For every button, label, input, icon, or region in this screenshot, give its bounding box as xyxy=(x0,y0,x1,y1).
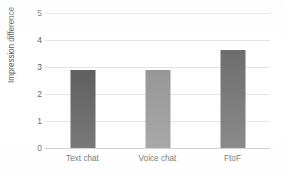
y-tick-label-5: 5 xyxy=(26,9,42,18)
x-axis-tick-labels: Text chatVoice chatFtoF xyxy=(45,153,270,167)
bar-slot xyxy=(45,13,120,148)
y-tick-label-4: 4 xyxy=(26,36,42,45)
x-tick-label: Voice chat xyxy=(120,153,195,164)
y-tick-label-1: 1 xyxy=(26,117,42,126)
x-tick-label: FtoF xyxy=(195,153,270,164)
bar[interactable] xyxy=(70,70,95,148)
bar-chart-figure: Impression difference 012345 Text chatVo… xyxy=(0,0,285,173)
gridline-0 xyxy=(45,148,270,149)
plot-area xyxy=(45,13,270,148)
bars-group xyxy=(45,13,270,148)
bar[interactable] xyxy=(220,50,245,148)
y-tick-label-0: 0 xyxy=(26,144,42,153)
y-axis-title: Impression difference xyxy=(5,0,19,105)
x-tick-label: Text chat xyxy=(45,153,120,164)
y-axis-tick-labels: 012345 xyxy=(26,13,42,148)
y-tick-label-3: 3 xyxy=(26,63,42,72)
bar-slot xyxy=(120,13,195,148)
bar[interactable] xyxy=(145,70,170,148)
y-tick-label-2: 2 xyxy=(26,90,42,99)
bar-slot xyxy=(195,13,270,148)
